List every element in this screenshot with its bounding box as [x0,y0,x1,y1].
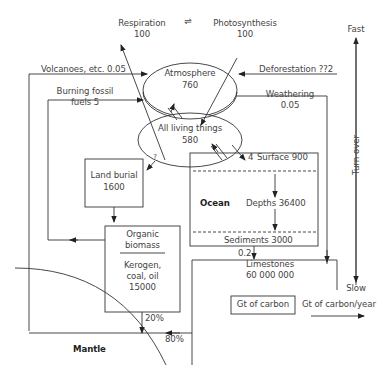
volcanoes-label: Volcanoes, etc. 0.05 [41,64,126,75]
organic-label-2: biomass [105,240,180,251]
limestones-label: Limestones [220,259,320,270]
ocean-depths-label: Depths 36400 [246,198,306,209]
deforestation-label: Deforestation ??2 [259,64,333,75]
ocean-surface-label: Surface 900 [257,152,308,163]
living-label: All living things [150,123,230,134]
kerogen-label: Kerogen, [105,260,180,271]
photosynthesis-value: 100 [205,29,285,40]
coal-oil-label: coal, oil [105,271,180,282]
respiration-label: Respiration [112,18,172,29]
fast-label: Fast [340,24,372,35]
legend-stock-label: Gt of carbon [231,299,295,310]
land-burial-rate: ? [150,152,160,163]
ocean-sediments-label: Sediments 3000 [224,235,293,246]
sediment-rate: 0.2 [238,248,251,259]
organic-value: 15000 [105,282,180,293]
fossil-label-1: Burning fossil [52,86,118,97]
ocean-exchange-rate: 4 [248,152,253,163]
subduction-20: 20% [145,313,164,324]
weathering-label: Weathering [260,89,320,100]
weathering-value: 0.05 [260,100,320,111]
carbon-cycle-diagram: Respiration 100 ⇌ Photosynthesis 100 Atm… [0,0,384,365]
mantle-label: Mantle [73,344,106,355]
turnover-label: Turn over [351,125,361,185]
organic-label-1: Organic [105,229,180,240]
land-burial-value: 1600 [85,182,143,193]
atmosphere-label: Atmosphere [160,68,220,79]
atmosphere-value: 760 [160,80,220,91]
legend-flux-label: Gt of carbon/year [302,299,376,310]
land-burial-label: Land burial [85,170,143,181]
limestones-value: 60 000 000 [220,270,320,281]
diagram-lines [0,0,384,365]
fossil-label-2: fuels 5 [52,97,118,108]
subduction-80: 80% [165,334,184,345]
slow-label: Slow [340,283,372,294]
ocean-label: Ocean [200,198,230,209]
equilibrium-icon: ⇌ [182,16,194,27]
photosynthesis-label: Photosynthesis [205,18,285,29]
respiration-value: 100 [112,29,172,40]
living-value: 580 [150,135,230,146]
